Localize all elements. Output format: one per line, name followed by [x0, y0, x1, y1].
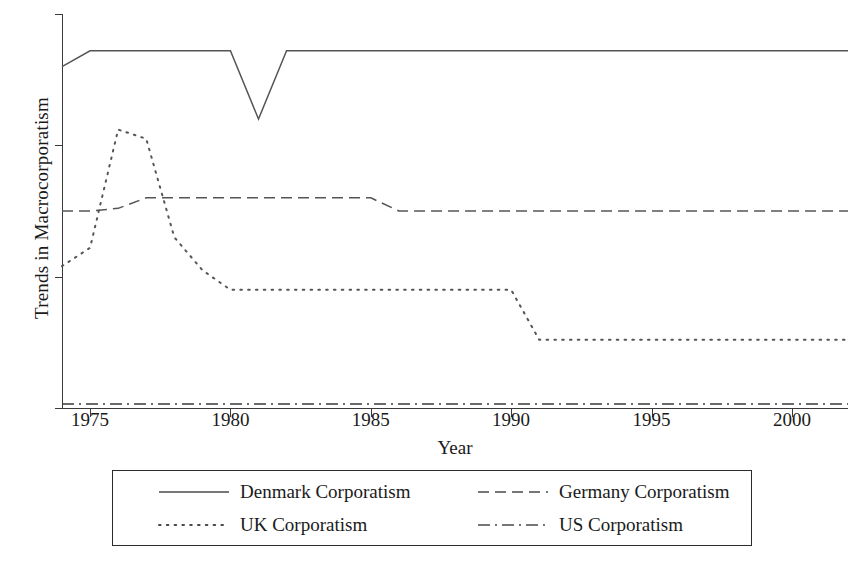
- x-axis-title: Year: [62, 437, 848, 459]
- plot-area: [62, 14, 848, 408]
- x-tick-label: 1985: [331, 410, 411, 429]
- y-axis-title: Trends in Macrocorporatism: [22, 0, 62, 418]
- x-tick-label: 1975: [50, 410, 130, 429]
- series-line-denmark-corporatism: [62, 51, 848, 119]
- chart-figure: Trends in Macrocorporatism 0123 19751980…: [0, 0, 865, 562]
- x-tick-label: 1980: [190, 410, 270, 429]
- y-tick: [55, 408, 62, 409]
- legend-entry: UK Corporatism: [113, 515, 432, 534]
- legend-line-swatch: [476, 486, 550, 498]
- y-tick: [55, 14, 62, 15]
- legend-entry: Denmark Corporatism: [113, 482, 432, 501]
- legend-line-swatch: [157, 519, 231, 531]
- x-tick-label: 1990: [471, 410, 551, 429]
- series-line-germany-corporatism: [62, 198, 848, 211]
- legend-label: US Corporatism: [559, 515, 683, 534]
- y-tick: [55, 145, 62, 146]
- legend-line-swatch: [476, 519, 550, 531]
- y-tick: [55, 277, 62, 278]
- series-layer: [62, 14, 848, 408]
- series-line-uk-corporatism: [62, 130, 848, 340]
- legend-line-swatch: [157, 486, 231, 498]
- legend-label: Germany Corporatism: [559, 482, 729, 501]
- legend-label: UK Corporatism: [240, 515, 367, 534]
- x-tick-label: 2000: [752, 410, 832, 429]
- legend-entry: US Corporatism: [432, 515, 751, 534]
- x-axis-line: [62, 408, 848, 409]
- chart-legend: Denmark CorporatismGermany CorporatismUK…: [112, 470, 752, 546]
- legend-entry: Germany Corporatism: [432, 482, 751, 501]
- x-tick-label: 1995: [612, 410, 692, 429]
- legend-label: Denmark Corporatism: [240, 482, 410, 501]
